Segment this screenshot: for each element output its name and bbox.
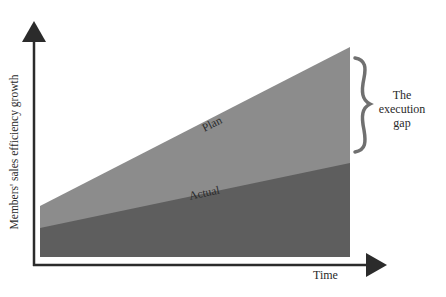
- x-axis-label: Time: [313, 268, 338, 283]
- y-axis-label: Members' sales efficiency growth: [8, 75, 20, 230]
- gap-line-1: The: [372, 88, 432, 102]
- execution-gap-diagram: Members' sales efficiency growth Time Pl…: [0, 0, 446, 297]
- gap-line-3: gap: [372, 116, 432, 130]
- gap-line-2: execution: [372, 102, 432, 116]
- curly-brace-icon: [355, 58, 370, 152]
- diagram-canvas: [0, 0, 446, 297]
- y-axis-arrow-icon: [22, 21, 46, 42]
- x-axis-arrow-icon: [366, 253, 387, 277]
- execution-gap-label: The execution gap: [372, 88, 432, 130]
